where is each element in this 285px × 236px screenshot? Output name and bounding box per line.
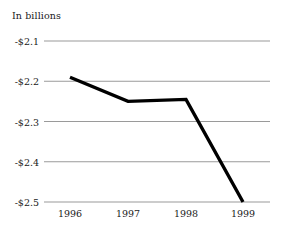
x-axis-tick-label: 1996 [58,208,82,219]
data-series [70,77,243,202]
x-axis-tick-label: 1997 [116,208,140,219]
gridlines [44,41,270,202]
x-axis-tick-label: 1999 [231,208,255,219]
y-axis-tick-label: -$2.2 [15,76,39,87]
series-line [70,77,243,202]
line-chart: In billions -$2.1-$2.2-$2.3-$2.4-$2.5 19… [0,0,285,236]
y-axis-tick-label: -$2.3 [15,116,39,127]
x-axis-tick-label: 1998 [174,208,198,219]
y-axis-tick-label: -$2.1 [15,36,39,47]
y-axis-tick-label: -$2.5 [15,197,39,208]
y-axis-tick-label: -$2.4 [15,156,39,167]
plot-area [0,0,285,236]
